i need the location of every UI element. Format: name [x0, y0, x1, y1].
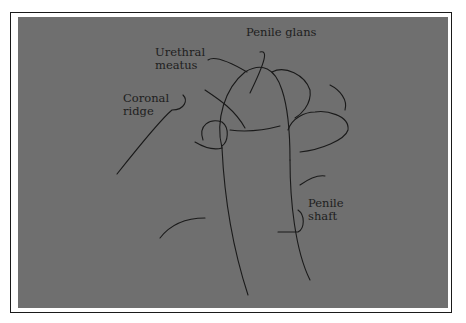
shaft-leader [278, 210, 303, 232]
glans-outline [220, 67, 290, 160]
glans-leader [250, 52, 265, 93]
label-urethral-meatus: Urethral meatus [155, 46, 205, 72]
finger-right-top [272, 70, 310, 118]
label-coronal-ridge: Coronal ridge [123, 92, 169, 118]
coronal-line [230, 126, 280, 131]
shaft-left-outline [222, 148, 248, 295]
label-penile-glans: Penile glans [246, 26, 316, 39]
meatus-leader [208, 58, 247, 72]
label-penile-shaft: Penile shaft [308, 197, 344, 223]
shaft-right-outline [290, 160, 310, 280]
anatomical-line-drawing [0, 0, 466, 323]
finger-left [202, 121, 227, 146]
finger-right [288, 112, 348, 152]
